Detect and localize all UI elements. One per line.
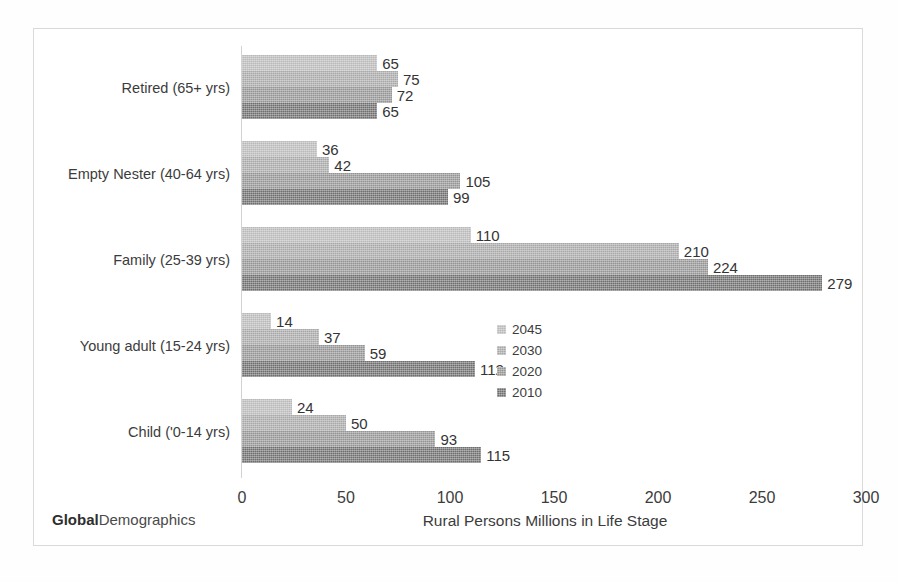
x-tick-label: 50	[337, 489, 355, 507]
bar-row[interactable]: 75	[242, 71, 862, 87]
category-label: Child ('0-14 yrs)	[34, 423, 230, 441]
bar-value-label: 93	[435, 431, 457, 448]
bar-2020-3[interactable]	[242, 345, 365, 361]
x-tick-label: 100	[437, 489, 464, 507]
bar-group: Young adult (15-24 yrs)143759112	[34, 309, 862, 383]
bar-2010-0[interactable]	[242, 103, 377, 119]
x-tick-label: 150	[541, 489, 568, 507]
bar-row[interactable]: 37	[242, 329, 862, 345]
legend-label: 2045	[512, 322, 542, 337]
bar-group: Retired (65+ yrs)65757265	[34, 51, 862, 125]
brand-rest-text: Demographics	[99, 511, 196, 528]
legend-swatch-icon	[497, 346, 506, 355]
legend-swatch-icon	[497, 367, 506, 376]
bar-value-label: 110	[471, 227, 500, 244]
plot-area: Retired (65+ yrs)65757265Empty Nester (4…	[34, 29, 862, 545]
bar-2010-3[interactable]	[242, 361, 475, 377]
legend-label: 2020	[512, 364, 542, 379]
bar-stack: 364210599	[242, 141, 862, 207]
bar-2020-4[interactable]	[242, 431, 435, 447]
bar-row[interactable]: 105	[242, 173, 862, 189]
category-label: Retired (65+ yrs)	[34, 79, 230, 97]
bar-row[interactable]: 14	[242, 313, 862, 329]
bar-row[interactable]: 112	[242, 361, 862, 377]
bar-row[interactable]: 24	[242, 399, 862, 415]
bar-row[interactable]: 50	[242, 415, 862, 431]
bar-row[interactable]: 59	[242, 345, 862, 361]
bar-value-label: 36	[317, 141, 339, 158]
bar-row[interactable]: 115	[242, 447, 862, 463]
bar-value-label: 72	[392, 87, 414, 104]
bar-stack: 245093115	[242, 399, 862, 465]
bar-row[interactable]: 279	[242, 275, 862, 291]
bar-value-label: 115	[481, 447, 510, 464]
bar-value-label: 50	[346, 415, 368, 432]
bar-2030-2[interactable]	[242, 243, 679, 259]
chart-footer: GlobalDemographics Rural Persons Million…	[34, 511, 862, 537]
bar-value-label: 42	[329, 157, 351, 174]
bar-row[interactable]: 36	[242, 141, 862, 157]
bar-2010-4[interactable]	[242, 447, 481, 463]
bar-2045-0[interactable]	[242, 55, 377, 71]
bar-2030-0[interactable]	[242, 71, 398, 87]
bar-2030-3[interactable]	[242, 329, 319, 345]
bar-value-label: 65	[377, 55, 399, 72]
x-axis-title: Rural Persons Millions in Life Stage	[242, 512, 848, 530]
bar-2010-1[interactable]	[242, 189, 448, 205]
legend-label: 2010	[512, 385, 542, 400]
bar-value-label: 14	[271, 313, 293, 330]
bar-2020-2[interactable]	[242, 259, 708, 275]
bar-2045-4[interactable]	[242, 399, 292, 415]
chart-frame: Retired (65+ yrs)65757265Empty Nester (4…	[33, 28, 863, 546]
bar-2030-4[interactable]	[242, 415, 346, 431]
bar-value-label: 99	[448, 189, 470, 206]
x-tick-label: 200	[645, 489, 672, 507]
bar-2020-0[interactable]	[242, 87, 392, 103]
bar-value-label: 210	[679, 243, 709, 260]
x-axis-ticks: 050100150200250300	[242, 481, 862, 511]
bar-2045-2[interactable]	[242, 227, 471, 243]
brand-bold-text: Global	[52, 511, 99, 528]
bar-group: Empty Nester (40-64 yrs)364210599	[34, 137, 862, 211]
bar-value-label: 24	[292, 399, 314, 416]
bar-row[interactable]: 110	[242, 227, 862, 243]
bar-stack: 65757265	[242, 55, 862, 121]
bar-row[interactable]: 210	[242, 243, 862, 259]
bar-row[interactable]: 224	[242, 259, 862, 275]
bar-value-label: 105	[460, 173, 490, 190]
bar-row[interactable]: 42	[242, 157, 862, 173]
bar-row[interactable]: 65	[242, 55, 862, 71]
bar-stack: 110210224279	[242, 227, 862, 293]
chart-legend: 2045203020202010	[497, 319, 542, 403]
x-tick-label: 300	[853, 489, 880, 507]
category-label: Family (25-39 yrs)	[34, 251, 230, 269]
bar-2045-1[interactable]	[242, 141, 317, 157]
bar-row[interactable]: 65	[242, 103, 862, 119]
bar-value-label: 59	[365, 345, 387, 362]
bar-value-label: 279	[822, 275, 852, 292]
brand-watermark: GlobalDemographics	[52, 511, 195, 528]
bar-group: Family (25-39 yrs)110210224279	[34, 223, 862, 297]
legend-swatch-icon	[497, 388, 506, 397]
category-label: Empty Nester (40-64 yrs)	[34, 165, 230, 183]
bar-row[interactable]: 99	[242, 189, 862, 205]
bar-row[interactable]: 72	[242, 87, 862, 103]
bar-2010-2[interactable]	[242, 275, 822, 291]
bar-2045-3[interactable]	[242, 313, 271, 329]
bar-value-label: 37	[319, 329, 341, 346]
legend-item-2010[interactable]: 2010	[497, 382, 542, 403]
bar-2030-1[interactable]	[242, 157, 329, 173]
legend-label: 2030	[512, 343, 542, 358]
legend-swatch-icon	[497, 325, 506, 334]
x-tick-label: 250	[749, 489, 776, 507]
legend-item-2030[interactable]: 2030	[497, 340, 542, 361]
legend-item-2045[interactable]: 2045	[497, 319, 542, 340]
bar-row[interactable]: 93	[242, 431, 862, 447]
bar-2020-1[interactable]	[242, 173, 460, 189]
category-label: Young adult (15-24 yrs)	[34, 337, 230, 355]
legend-item-2020[interactable]: 2020	[497, 361, 542, 382]
x-tick-label: 0	[238, 489, 247, 507]
bar-value-label: 75	[398, 71, 420, 88]
bar-group: Child ('0-14 yrs)245093115	[34, 395, 862, 469]
bar-value-label: 224	[708, 259, 738, 276]
